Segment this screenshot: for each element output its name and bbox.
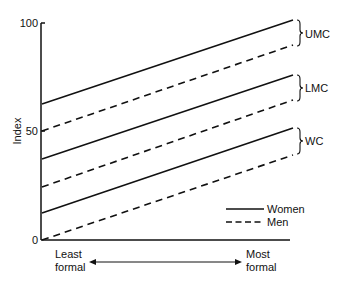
least-formal-label-line2: formal [55, 261, 86, 273]
line-wc-women [42, 128, 293, 213]
most-formal-label-line1: Most [246, 248, 270, 260]
legend-label-women: Women [267, 203, 305, 215]
line-wc-men [42, 155, 293, 240]
legend-label-men: Men [267, 216, 288, 228]
brace-lmc-icon [297, 75, 303, 101]
y-tick-label-0: 0 [32, 234, 38, 246]
y-axis-label: Index [11, 117, 23, 144]
line-umc-women [42, 20, 293, 104]
group-label-wc: WC [305, 135, 323, 147]
group-braces [297, 20, 303, 154]
y-tick-label-50: 50 [26, 125, 38, 137]
most-formal-label-line2: formal [246, 261, 277, 273]
least-formal-label-line1: Least [55, 248, 82, 260]
y-tick-label-100: 100 [20, 17, 38, 29]
double-arrow-icon [89, 259, 242, 265]
legend: Women Men [226, 203, 305, 228]
group-label-umc: UMC [305, 28, 330, 40]
brace-wc-icon [297, 128, 303, 154]
chart: 100 50 0 Index UMC LMC WC Women Men Leas… [0, 0, 339, 287]
group-label-lmc: LMC [305, 82, 328, 94]
axes [41, 23, 290, 240]
line-lmc-men [42, 100, 293, 187]
brace-umc-icon [297, 20, 303, 46]
series-lines [42, 20, 293, 240]
